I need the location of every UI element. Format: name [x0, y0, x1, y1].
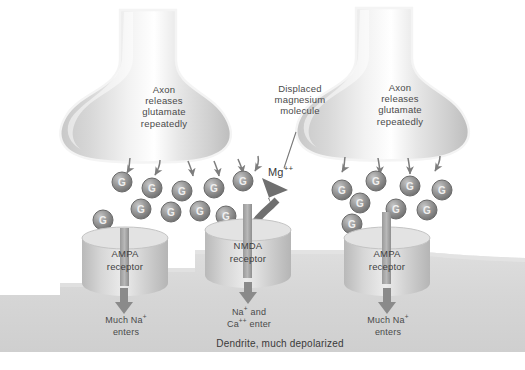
svg-text:G: G	[167, 207, 175, 218]
nmda-flow2-base: Ca	[227, 319, 239, 329]
svg-text:G: G	[99, 215, 107, 226]
glutamate-molecule: G	[204, 178, 224, 198]
svg-text:G: G	[210, 183, 218, 194]
nmda-flow2-charge: ++	[239, 317, 247, 324]
left-axon-label: Axon releases glutamate repeatedly	[126, 84, 202, 129]
glutamate-molecule: G	[190, 201, 210, 221]
ampa-left-name: AMPA	[90, 248, 160, 259]
nmda-name-line2: receptor	[213, 253, 283, 264]
svg-text:G: G	[239, 176, 247, 187]
ampa-left-name-line2: receptor	[90, 261, 160, 272]
glutamate-molecule: G	[112, 172, 132, 192]
magnesium-ion-label: Mg++	[268, 166, 314, 179]
ampa-right-flow-charge: +	[405, 313, 409, 320]
svg-text:G: G	[372, 176, 380, 187]
glutamate-cluster-right: G G G G G G G	[332, 171, 452, 234]
svg-text:G: G	[348, 219, 356, 230]
glutamate-molecule: G	[93, 210, 113, 230]
glutamate-molecule: G	[161, 202, 181, 222]
glutamate-molecule: G	[332, 180, 352, 200]
svg-text:G: G	[356, 198, 364, 209]
glutamate-molecule: G	[233, 171, 253, 191]
ampa-left-flow-line1: Much Na+	[86, 315, 166, 326]
ampa-right-name-line2: receptor	[352, 261, 422, 272]
nmda-name: NMDA	[213, 240, 283, 251]
displaced-magnesium-label: Displaced magnesium molecule	[259, 83, 341, 117]
nmda-flow-tail: and	[248, 307, 266, 317]
nmda-flow-base: Na	[232, 307, 244, 317]
magnesium-leader-line	[284, 132, 296, 168]
glutamate-molecule: G	[417, 200, 437, 220]
svg-text:G: G	[338, 185, 346, 196]
glutamate-molecule: G	[400, 176, 420, 196]
dendrite-caption: Dendrite, much depolarized	[180, 338, 380, 350]
ampa-right-flow-line1: Much Na+	[348, 315, 428, 326]
glutamate-molecule: G	[131, 199, 151, 219]
nmda-flow2-tail: enter	[247, 319, 271, 329]
nmda-flow-line2: Ca++ enter	[210, 319, 288, 330]
glutamate-molecule: G	[142, 178, 162, 198]
svg-text:G: G	[148, 183, 156, 194]
figure-canvas: G G G G G G G	[0, 0, 525, 370]
glutamate-molecule: G	[172, 181, 192, 201]
glutamate-molecule: G	[366, 171, 386, 191]
svg-text:G: G	[438, 185, 446, 196]
ampa-right-name: AMPA	[352, 248, 422, 259]
ampa-left-flow-line2: enters	[86, 327, 166, 338]
svg-text:G: G	[178, 186, 186, 197]
svg-text:G: G	[423, 205, 431, 216]
svg-text:G: G	[118, 177, 126, 188]
svg-text:G: G	[137, 204, 145, 215]
ampa-left-flow-charge: +	[143, 313, 147, 320]
ampa-left-flow-base: Much Na	[105, 315, 142, 325]
ampa-right-flow-base: Much Na	[367, 315, 404, 325]
svg-text:G: G	[406, 181, 414, 192]
glutamate-molecule: G	[350, 193, 370, 213]
nmda-flow-line1: Na+ and	[210, 307, 288, 318]
right-axon-label: Axon releases glutamate repeatedly	[362, 82, 438, 127]
svg-text:G: G	[392, 204, 400, 215]
magnesium-ion-base: Mg	[268, 166, 284, 178]
svg-text:G: G	[196, 206, 204, 217]
ampa-right-flow-line2: enters	[348, 327, 428, 338]
glutamate-molecule: G	[432, 180, 452, 200]
magnesium-ion-charge: ++	[284, 164, 294, 173]
